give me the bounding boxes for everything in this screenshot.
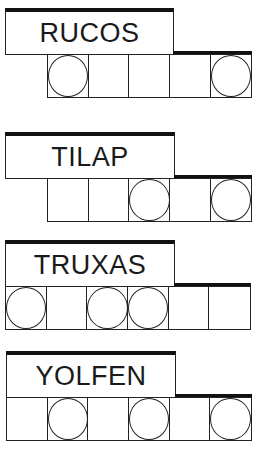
answer-tile[interactable] — [128, 397, 170, 441]
jumble-puzzle-3: TRUXAS — [0, 240, 274, 340]
circle-marker-icon — [128, 287, 168, 329]
answer-tile[interactable] — [169, 397, 211, 441]
jumble-puzzle-1: RUCOS — [0, 8, 274, 108]
answer-tile[interactable] — [210, 54, 252, 98]
answer-tile[interactable] — [47, 397, 89, 441]
answer-tile[interactable] — [169, 178, 211, 222]
answer-tile[interactable] — [47, 54, 89, 98]
circle-marker-icon — [210, 398, 250, 440]
scrambled-word: TILAP — [51, 142, 129, 173]
circle-marker-icon — [211, 55, 251, 97]
answer-tile[interactable] — [46, 286, 88, 330]
circle-marker-icon — [48, 55, 88, 97]
answer-tiles — [6, 397, 252, 441]
jumble-puzzle-4: YOLFEN — [0, 351, 274, 451]
answer-tile[interactable] — [86, 286, 128, 330]
scrambled-word-box: RUCOS — [5, 8, 174, 55]
circle-marker-icon — [129, 398, 169, 440]
scrambled-word: RUCOS — [39, 18, 139, 49]
answer-tile[interactable] — [5, 286, 47, 330]
answer-tile[interactable] — [47, 178, 89, 222]
scrambled-word-box: TRUXAS — [5, 240, 175, 287]
scrambled-word: YOLFEN — [35, 361, 146, 392]
circle-marker-icon — [211, 179, 251, 221]
answer-tile[interactable] — [209, 397, 251, 441]
scrambled-word: TRUXAS — [34, 250, 147, 281]
circle-marker-icon — [87, 287, 127, 329]
circle-marker-icon — [48, 398, 88, 440]
answer-tile[interactable] — [208, 286, 250, 330]
jumble-puzzle-2: TILAP — [0, 132, 274, 232]
circle-marker-icon — [129, 179, 169, 221]
answer-tile[interactable] — [127, 286, 169, 330]
answer-tile[interactable] — [168, 286, 210, 330]
answer-tiles — [47, 178, 252, 222]
answer-tile[interactable] — [6, 397, 48, 441]
answer-tile[interactable] — [87, 397, 129, 441]
answer-tile[interactable] — [128, 54, 170, 98]
answer-tiles — [47, 54, 252, 98]
circle-marker-icon — [6, 287, 46, 329]
answer-tile[interactable] — [88, 178, 130, 222]
answer-tile[interactable] — [88, 54, 130, 98]
answer-tiles — [5, 286, 251, 330]
scrambled-word-box: TILAP — [5, 132, 175, 179]
answer-tile[interactable] — [169, 54, 211, 98]
answer-tile[interactable] — [128, 178, 170, 222]
answer-tile[interactable] — [210, 178, 252, 222]
scrambled-word-box: YOLFEN — [6, 351, 176, 398]
